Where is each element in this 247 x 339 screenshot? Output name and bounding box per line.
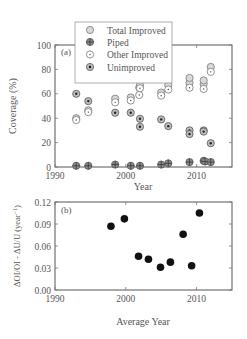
y-tick-label: 0.06 <box>34 242 51 252</box>
center-dot <box>89 66 91 68</box>
center-dot <box>139 88 140 89</box>
center-dot <box>160 118 162 120</box>
center-dot <box>88 111 89 112</box>
center-dot <box>189 87 190 88</box>
y-tick-label: 100 <box>37 41 52 51</box>
legend: Total Improved Piped Other Improved Uni <box>75 22 172 83</box>
panel-b-plot-frame <box>55 202 232 290</box>
chart-canvas: 020406080100 199020002010 (a) Year Cover… <box>0 0 247 339</box>
panel-a-label: (a) <box>61 47 71 57</box>
open-circle-marker-icon <box>186 74 193 81</box>
center-dot <box>130 112 132 114</box>
figure: 020406080100 199020002010 (a) Year Cover… <box>0 0 247 339</box>
center-dot <box>167 125 169 127</box>
center-dot <box>114 102 115 103</box>
center-dot <box>114 112 116 114</box>
x-tick-label: 1990 <box>46 171 65 181</box>
filled-circle-marker-icon <box>157 263 165 271</box>
panel-b-relative-change: 0.000.030.060.090.12 199020002010 (b) Av… <box>12 198 232 328</box>
panel-a-y-axis-title: Coverage (%) <box>7 78 19 134</box>
x-tick-label: 2000 <box>116 171 135 181</box>
y-tick-label: 0.03 <box>34 264 51 274</box>
y-tick-label: 80 <box>42 65 52 75</box>
filled-circle-marker-icon <box>135 252 143 260</box>
legend-label: Total Improved <box>107 26 166 36</box>
y-tick-label: 0.12 <box>34 198 51 208</box>
center-dot <box>188 133 190 135</box>
center-dot <box>202 130 204 132</box>
y-title-close: ) <box>12 205 22 208</box>
x-tick-label: 2010 <box>187 294 206 304</box>
panel-b-x-axis-title: Average Year <box>116 316 170 327</box>
center-dot <box>139 126 141 128</box>
filled-circle-marker-icon <box>145 255 153 263</box>
filled-circle-marker-icon <box>167 258 175 266</box>
center-dot <box>168 89 169 90</box>
y-title-main: ΔOI/OI - ΔU/U (year <box>12 214 22 287</box>
open-circle-marker-icon <box>200 77 207 84</box>
y-tick-label: 60 <box>42 89 52 99</box>
legend-label: Unimproved <box>107 63 155 73</box>
open-circle-marker-icon <box>86 26 93 33</box>
panel-a-x-axis-title: Year <box>134 181 153 192</box>
center-dot <box>87 100 89 102</box>
center-dot <box>130 100 131 101</box>
legend-label: Other Improved <box>107 50 168 60</box>
filled-circle-marker-icon <box>196 209 204 217</box>
series-piped <box>73 157 215 169</box>
center-dot <box>75 93 77 95</box>
center-dot <box>210 142 212 144</box>
series-unimproved <box>73 90 215 147</box>
center-dot <box>203 88 204 89</box>
legend-label: Piped <box>107 38 129 48</box>
x-tick-label: 2010 <box>187 171 206 181</box>
panel-b-label: (b) <box>61 205 72 215</box>
center-dot <box>139 94 140 95</box>
center-dot <box>139 118 141 120</box>
x-tick-label: 1990 <box>46 294 65 304</box>
filled-circle-marker-icon <box>121 215 129 223</box>
y-tick-label: 20 <box>42 138 52 148</box>
y-tick-label: 0.09 <box>34 220 51 230</box>
center-dot <box>89 54 90 55</box>
center-dot <box>161 95 162 96</box>
panel-a-coverage: 020406080100 199020002010 (a) Year Cover… <box>7 22 232 192</box>
panel-b-data-points <box>107 209 203 271</box>
filled-circle-marker-icon <box>188 262 196 270</box>
x-tick-label: 2000 <box>116 294 135 304</box>
center-dot <box>76 119 77 120</box>
center-dot <box>210 71 211 72</box>
filled-circle-marker-icon <box>107 222 115 230</box>
filled-circle-marker-icon <box>179 230 187 238</box>
panel-b-y-axis-title: ΔOI/OI - ΔU/U (year−1) <box>12 205 22 287</box>
y-tick-label: 40 <box>42 114 52 124</box>
